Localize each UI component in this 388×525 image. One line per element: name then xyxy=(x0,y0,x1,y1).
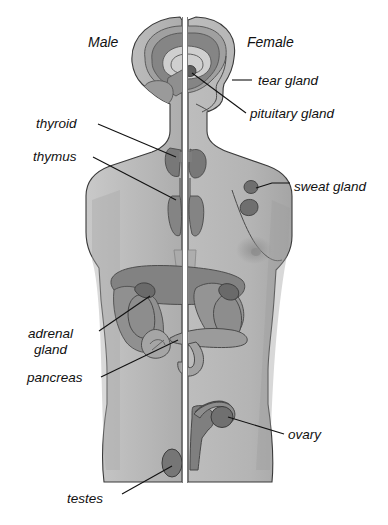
label-adrenal-gland-line2: gland xyxy=(34,342,68,357)
testis-organ xyxy=(162,449,182,477)
diagram-canvas: Male Female tear gland pituitary gland t… xyxy=(0,0,388,525)
label-adrenal-gland: adrenal xyxy=(28,326,74,341)
label-thymus: thymus xyxy=(33,149,77,164)
label-thyroid: thyroid xyxy=(36,116,77,131)
nipple xyxy=(251,248,261,256)
endocrine-system-diagram: Male Female tear gland pituitary gland t… xyxy=(0,0,388,525)
label-pituitary-gland: pituitary gland xyxy=(249,106,335,121)
label-male: Male xyxy=(88,34,119,50)
sweat-gland-upper xyxy=(244,181,258,194)
label-tear-gland: tear gland xyxy=(258,73,319,88)
label-ovary: ovary xyxy=(288,427,322,442)
sweat-gland-lower xyxy=(240,199,258,215)
leader-thyroid xyxy=(98,124,176,157)
label-testes: testes xyxy=(67,491,103,506)
label-sweat-gland: sweat gland xyxy=(294,179,367,194)
label-female: Female xyxy=(247,34,294,50)
torso-shading-left xyxy=(92,190,120,470)
midline-divider xyxy=(182,17,188,483)
label-pancreas: pancreas xyxy=(26,370,83,385)
